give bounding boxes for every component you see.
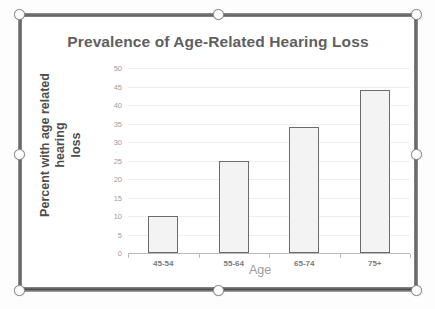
bar-65-74[interactable] [289, 127, 319, 253]
gridline: 45 [128, 87, 410, 88]
x-axis-tick [410, 254, 411, 258]
resize-handle-middle-left[interactable] [14, 149, 25, 160]
y-axis-tick-label: 5 [118, 230, 122, 239]
resize-handle-bottom-center[interactable] [213, 285, 224, 296]
resize-handle-bottom-right[interactable] [411, 285, 422, 296]
y-axis-tick-label: 25 [114, 156, 122, 165]
y-axis-title-line1: Percent with age related hearing [38, 73, 68, 217]
x-axis-category-label: 55-64 [224, 259, 244, 268]
resize-handle-top-center[interactable] [213, 9, 224, 20]
y-axis-tick-label: 15 [114, 193, 122, 202]
y-axis-title-line2: loss [69, 133, 83, 158]
plot-area: 05101520253035404550 45-5455-6465-7475+ [128, 69, 410, 254]
y-axis-tick-label: 0 [118, 249, 122, 258]
x-axis-tick [269, 254, 270, 258]
y-axis-tick-label: 30 [114, 138, 122, 147]
x-axis-category-label: 75+ [368, 259, 382, 268]
y-axis-tick-label: 20 [114, 175, 122, 184]
gridline: 50 [128, 68, 410, 69]
resize-handle-top-right[interactable] [411, 9, 422, 20]
y-axis-tick-label: 45 [114, 82, 122, 91]
bar-75+[interactable] [360, 90, 390, 253]
y-axis-tick-label: 35 [114, 119, 122, 128]
chart-object-selected[interactable]: Prevalence of Age-Related Hearing Loss P… [18, 13, 418, 292]
y-axis-tick-label: 50 [114, 64, 122, 73]
resize-handle-middle-right[interactable] [411, 149, 422, 160]
x-axis-category-label: 65-74 [294, 259, 314, 268]
bar-55-64[interactable] [219, 161, 249, 254]
x-axis-category-label: 45-54 [153, 259, 173, 268]
bar-45-54[interactable] [148, 216, 178, 253]
y-axis-tick-label: 40 [114, 101, 122, 110]
y-axis-tick-label: 10 [114, 212, 122, 221]
x-axis-tick [128, 254, 129, 258]
x-axis-tick [199, 254, 200, 258]
chart-canvas[interactable]: Prevalence of Age-Related Hearing Loss P… [22, 17, 414, 287]
resize-handle-bottom-left[interactable] [14, 285, 25, 296]
chart-title: Prevalence of Age-Related Hearing Loss [22, 33, 414, 51]
y-axis-title: Percent with age related hearing loss [44, 51, 78, 239]
x-axis-tick [340, 254, 341, 258]
slide-surface: Prevalence of Age-Related Hearing Loss P… [0, 0, 435, 309]
resize-handle-top-left[interactable] [14, 9, 25, 20]
